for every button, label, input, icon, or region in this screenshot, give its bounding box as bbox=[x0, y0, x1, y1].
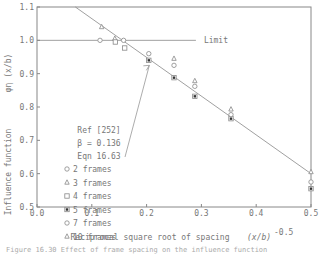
data-point-circle-icon bbox=[121, 38, 125, 42]
y-tick-label: 0.8 bbox=[20, 103, 35, 112]
annotation-line: Eqn 16.63 bbox=[77, 152, 121, 161]
annotation-line: Ref [252] bbox=[77, 126, 120, 135]
plot-border bbox=[37, 7, 311, 207]
data-point-triangle-icon bbox=[309, 169, 313, 173]
y-tick-label: 0.5 bbox=[20, 203, 35, 212]
data-point-circle-icon bbox=[147, 51, 151, 55]
data-point-filled-square-icon-fill bbox=[173, 76, 175, 78]
y-tick-label: 1.0 bbox=[20, 36, 35, 45]
data-point-filled-square-icon-fill bbox=[148, 59, 150, 61]
legend: 2 frames3 frames4 frames5 frames7 frames… bbox=[65, 165, 117, 242]
data-point-circle-icon bbox=[193, 84, 197, 88]
legend-filled-square-icon-fill bbox=[66, 208, 68, 210]
data-point-filled-square-icon-fill bbox=[310, 187, 312, 189]
y-tick-label: 1.1 bbox=[20, 3, 35, 12]
limit-label: Limit bbox=[204, 36, 228, 45]
data-point-triangle-icon bbox=[172, 56, 176, 60]
x-axis-title: Reciprocal square root of spacing bbox=[71, 233, 230, 242]
legend-label: 2 frames bbox=[73, 165, 112, 174]
reference-lines: Limit bbox=[37, 7, 311, 174]
x-axis-math: (x/b) bbox=[247, 233, 271, 242]
x-tick-label: 0.2 bbox=[139, 209, 154, 218]
legend-square-icon bbox=[65, 194, 69, 198]
data-point-filled-square-icon-fill bbox=[230, 117, 232, 119]
data-point-triangle-icon bbox=[229, 107, 233, 111]
y-tick-label: 0.6 bbox=[20, 170, 35, 179]
x-tick-label: 0.5 bbox=[304, 209, 319, 218]
x-tick-label: 0.3 bbox=[194, 209, 209, 218]
data-point-square-icon bbox=[113, 40, 117, 44]
data-point-circle-icon bbox=[309, 180, 313, 184]
y-axis-math: φη (x/b) bbox=[4, 54, 13, 93]
data-point-circle-icon bbox=[98, 38, 102, 42]
leader-arrow bbox=[125, 65, 149, 157]
x-axis-exponent: -0.5 bbox=[274, 228, 293, 237]
equation-line bbox=[75, 7, 311, 174]
data-points bbox=[98, 24, 313, 191]
legend-circle-icon bbox=[65, 167, 69, 171]
chart: 0.00.10.20.30.40.5 0.50.60.70.80.91.01.1… bbox=[0, 0, 321, 246]
annotation-line: β = 0.136 bbox=[77, 139, 121, 148]
legend-label: 4 frames bbox=[73, 192, 112, 201]
data-point-triangle-icon bbox=[193, 78, 197, 82]
data-point-circle-icon bbox=[172, 63, 176, 67]
legend-label: 5 frames bbox=[73, 206, 112, 215]
y-axis-title: Influence function bbox=[4, 128, 13, 215]
y-tick-label: 0.9 bbox=[20, 70, 35, 79]
legend-triangle-icon bbox=[65, 180, 69, 184]
y-tick-label: 0.7 bbox=[20, 136, 35, 145]
figure-caption: Figure 16.30 Effect of frame spacing on … bbox=[6, 246, 267, 254]
legend-label: 7 frames bbox=[73, 219, 112, 228]
legend-circle-icon bbox=[65, 221, 69, 225]
data-point-filled-square-icon-fill bbox=[194, 95, 196, 97]
plot-frame bbox=[37, 7, 311, 207]
annotation: Ref [252]β = 0.136Eqn 16.63 bbox=[77, 65, 149, 161]
legend-triangle-icon bbox=[65, 234, 69, 238]
data-point-circle-icon bbox=[229, 112, 233, 116]
data-point-square-icon bbox=[122, 46, 126, 50]
legend-label: 3 frames bbox=[73, 179, 112, 188]
x-tick-label: 0.4 bbox=[249, 209, 264, 218]
